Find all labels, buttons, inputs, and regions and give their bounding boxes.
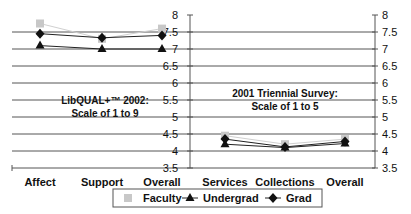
y-tick-label: 3.5 [382, 162, 397, 174]
y-tick-label: 7.5 [382, 26, 397, 38]
y-tick-label: 4 [382, 145, 388, 157]
panel-annotation: Scale of 1 to 9 [71, 108, 139, 119]
y-tick-label: 4.5 [382, 128, 397, 140]
y-tick-label: 6 [382, 77, 388, 89]
panel-annotation: Scale of 1 to 5 [251, 101, 319, 112]
data-point-undergrad [98, 44, 107, 52]
y-tick-label: 8 [382, 9, 388, 21]
y-tick-label: 4 [172, 145, 178, 157]
y-tick-label: 4.5 [163, 128, 178, 140]
legend-label-faculty: Faculty [143, 192, 182, 204]
data-point-grad [36, 29, 45, 39]
legend: FacultyUndergradGrad [113, 189, 322, 207]
y-tick-label: 3.5 [163, 162, 178, 174]
y-tick-label: 7 [382, 43, 388, 55]
annotations: LibQUAL+™ 2002:Scale of 1 to 92001 Trien… [61, 88, 338, 119]
data-point-undergrad [158, 44, 167, 52]
y-tick-label: 6.5 [382, 60, 397, 72]
category-labels: AffectSupportOverallServicesCollectionsO… [24, 176, 363, 188]
series [36, 20, 350, 152]
category-label: Affect [24, 176, 56, 188]
y-tick-label: 5 [382, 111, 388, 123]
y-tick-label: 5.5 [382, 94, 397, 106]
y-tick-label: 5 [172, 111, 178, 123]
legend-label-grad: Grad [286, 192, 312, 204]
panel-annotation: LibQUAL+™ 2002: [61, 95, 149, 106]
category-label: Support [81, 176, 123, 188]
data-point-faculty [36, 20, 44, 28]
category-label: Services [202, 176, 247, 188]
y-tick-label: 7 [172, 43, 178, 55]
category-label: Overall [143, 176, 180, 188]
y-tick-label: 8 [172, 9, 178, 21]
y-tick-label: 6.5 [163, 60, 178, 72]
legend-label-undergrad: Undergrad [203, 192, 259, 204]
chart: 87.576.565.554.543.587.576.565.554.543.5… [0, 0, 411, 214]
y-tick-label: 5.5 [163, 94, 178, 106]
data-point-undergrad [36, 41, 45, 49]
legend-marker-faculty [124, 194, 132, 202]
category-label: Collections [255, 176, 314, 188]
panel-annotation: 2001 Triennial Survey: [232, 88, 338, 99]
y-tick-label: 6 [172, 77, 178, 89]
category-label: Overall [326, 176, 363, 188]
